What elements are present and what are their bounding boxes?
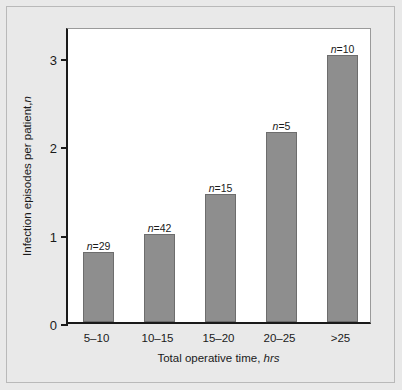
bar-value-label: n=29 (68, 240, 129, 252)
y-axis-tick-mark (61, 236, 68, 238)
y-axis-tick-mark (61, 147, 68, 149)
x-axis-tick-label: 15–20 (203, 332, 235, 344)
x-axis-title: Total operative time, hrs (66, 352, 371, 364)
x-axis-title-italic: hrs (264, 352, 280, 364)
y-axis-title-italic: n (21, 96, 33, 102)
bar (83, 252, 114, 322)
bar-value-label: n=15 (190, 182, 251, 194)
y-axis-tick-mark (61, 59, 68, 61)
bar (327, 55, 358, 322)
bar (144, 234, 175, 322)
x-axis-title-text: Total operative time, (157, 352, 260, 364)
y-axis-tick-label: 2 (50, 141, 57, 156)
y-axis-tick-label: 3 (50, 52, 57, 67)
bar-value-label: n=10 (312, 43, 373, 55)
y-axis-tick-mark (61, 324, 68, 326)
plot-frame: n=29n=42n=15n=5n=10 0123 (66, 28, 371, 324)
y-axis-tick-label: 0 (50, 318, 57, 333)
x-axis-tick-label: 5–10 (84, 332, 110, 344)
y-axis-tick-label: 1 (50, 229, 57, 244)
bar-value-label: n=5 (251, 120, 312, 132)
x-axis-tick-label: >25 (331, 332, 351, 344)
figure-container: Infection episodes per patient,n n=29n=4… (0, 0, 402, 390)
x-axis-tick-label: 20–25 (264, 332, 296, 344)
plot-area: n=29n=42n=15n=5n=10 (68, 29, 370, 322)
y-axis-title: Infection episodes per patient,n (18, 28, 36, 324)
x-axis-tick-label: 10–15 (142, 332, 174, 344)
bar-value-label: n=42 (129, 222, 190, 234)
bar (266, 132, 297, 322)
y-axis-title-text: Infection episodes per patient, (21, 102, 33, 255)
bar (205, 194, 236, 322)
